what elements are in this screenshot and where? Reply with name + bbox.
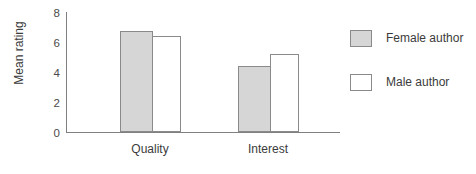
legend-label-female: Female author <box>386 31 463 45</box>
bar-chart: Mean rating 8 6 4 2 0 Quality Interest F… <box>0 0 476 174</box>
bar-interest-female <box>238 66 271 132</box>
y-axis-tick-labels: 8 6 4 2 0 <box>38 0 60 174</box>
legend-swatch-female-icon <box>350 30 372 47</box>
x-category-label-interest: Interest <box>228 142 308 156</box>
legend: Female author Male author <box>350 26 476 114</box>
plot-area <box>66 12 340 132</box>
bar-quality-female <box>120 31 153 132</box>
legend-label-male: Male author <box>386 75 449 89</box>
x-category-label-quality: Quality <box>110 142 190 156</box>
bar-quality-male <box>152 36 181 132</box>
legend-item-male: Male author <box>350 70 476 94</box>
legend-item-female: Female author <box>350 26 476 50</box>
legend-swatch-male-icon <box>350 74 372 91</box>
y-tick-8: 8 <box>40 8 60 20</box>
y-tick-2: 2 <box>40 98 60 110</box>
bar-interest-male <box>270 54 299 132</box>
y-tick-0: 0 <box>40 128 60 140</box>
x-axis-line <box>66 132 340 133</box>
y-tick-6: 6 <box>40 38 60 50</box>
y-axis-title: Mean rating <box>12 8 26 98</box>
y-tick-4: 4 <box>40 68 60 80</box>
